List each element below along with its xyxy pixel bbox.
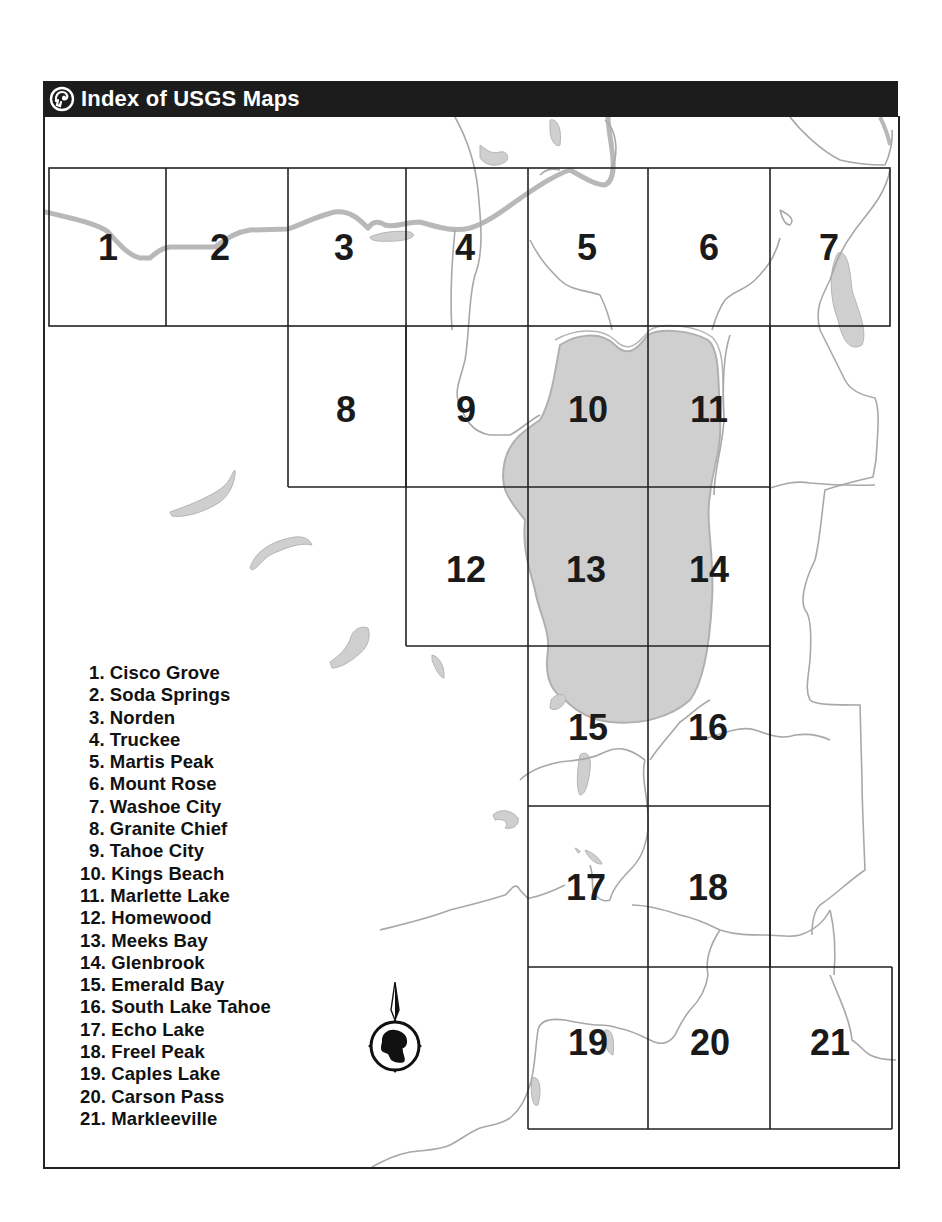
quad-label-8[interactable]: 8 bbox=[336, 389, 356, 431]
legend-item: 14. Glenbrook bbox=[80, 952, 271, 974]
legend-item: 8. Granite Chief bbox=[80, 818, 271, 840]
quad-label-17[interactable]: 17 bbox=[566, 867, 606, 909]
quad-label-12[interactable]: 12 bbox=[446, 549, 486, 591]
legend-item: 18. Freel Peak bbox=[80, 1041, 271, 1063]
quad-label-18[interactable]: 18 bbox=[688, 867, 728, 909]
legend-item: 7. Washoe City bbox=[80, 796, 271, 818]
quad-label-14[interactable]: 14 bbox=[689, 549, 729, 591]
quad-legend-list: 1. Cisco Grove 2. Soda Springs 3. Norden… bbox=[80, 662, 271, 1130]
quad-label-21[interactable]: 21 bbox=[810, 1022, 850, 1064]
legend-item: 20. Carson Pass bbox=[80, 1086, 271, 1108]
legend-item: 3. Norden bbox=[80, 707, 271, 729]
quad-label-20[interactable]: 20 bbox=[690, 1022, 730, 1064]
legend-item: 17. Echo Lake bbox=[80, 1019, 271, 1041]
legend-item: 6. Mount Rose bbox=[80, 773, 271, 795]
legend-item: 15. Emerald Bay bbox=[80, 974, 271, 996]
quad-label-7[interactable]: 7 bbox=[819, 227, 839, 269]
quad-label-2[interactable]: 2 bbox=[210, 227, 230, 269]
lake-tahoe bbox=[503, 331, 720, 723]
legend-item: 1. Cisco Grove bbox=[80, 662, 271, 684]
legend-item: 5. Martis Peak bbox=[80, 751, 271, 773]
legend-item: 4. Truckee bbox=[80, 729, 271, 751]
legend-item: 13. Meeks Bay bbox=[80, 930, 271, 952]
quad-label-16[interactable]: 16 bbox=[688, 707, 728, 749]
legend-item: 2. Soda Springs bbox=[80, 684, 271, 706]
legend-item: 19. Caples Lake bbox=[80, 1063, 271, 1085]
quad-label-5[interactable]: 5 bbox=[577, 227, 597, 269]
north-arrow-compass-icon bbox=[364, 980, 426, 1084]
quad-label-1[interactable]: 1 bbox=[98, 227, 118, 269]
quad-label-4[interactable]: 4 bbox=[455, 227, 475, 269]
quad-label-11[interactable]: 11 bbox=[690, 389, 728, 431]
legend-item: 9. Tahoe City bbox=[80, 840, 271, 862]
legend-item: 21. Markleeville bbox=[80, 1108, 271, 1130]
quad-label-3[interactable]: 3 bbox=[334, 227, 354, 269]
quad-label-13[interactable]: 13 bbox=[566, 549, 606, 591]
legend-item: 11. Marlette Lake bbox=[80, 885, 271, 907]
legend-item: 12. Homewood bbox=[80, 907, 271, 929]
legend-item: 10. Kings Beach bbox=[80, 863, 271, 885]
quad-label-9[interactable]: 9 bbox=[456, 389, 476, 431]
quad-label-6[interactable]: 6 bbox=[699, 227, 719, 269]
quad-label-19[interactable]: 19 bbox=[568, 1022, 608, 1064]
quad-label-10[interactable]: 10 bbox=[568, 389, 608, 431]
legend-item: 16. South Lake Tahoe bbox=[80, 996, 271, 1018]
quad-label-15[interactable]: 15 bbox=[568, 707, 608, 749]
